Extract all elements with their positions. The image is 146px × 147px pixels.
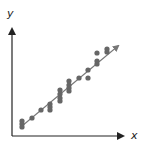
data-point [19, 124, 24, 129]
scatter-plot: y x [0, 0, 146, 147]
y-axis-label: y [6, 7, 14, 20]
data-point [29, 115, 34, 120]
data-points [19, 46, 109, 129]
data-point [57, 98, 62, 103]
data-point [104, 49, 109, 54]
data-point [76, 75, 81, 80]
data-point [85, 75, 90, 80]
data-point [66, 88, 71, 93]
data-point [94, 61, 99, 66]
x-axis-label: x [130, 129, 138, 142]
data-point [94, 50, 99, 55]
data-point [38, 107, 43, 112]
data-point [85, 67, 90, 72]
data-point [47, 107, 52, 112]
